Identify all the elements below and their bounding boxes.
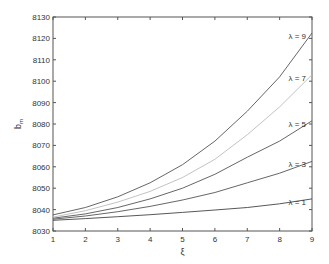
series-label: λ = 9 xyxy=(288,32,306,41)
x-tick-label: 8 xyxy=(277,235,282,244)
x-tick-label: 7 xyxy=(245,235,250,244)
y-axis-label: bm xyxy=(13,119,24,129)
x-tick-label: 1 xyxy=(51,235,56,244)
series-line xyxy=(53,161,312,219)
series-label: λ = 1 xyxy=(288,198,306,207)
y-tick-label: 8050 xyxy=(32,184,50,193)
x-tick-label: 4 xyxy=(148,235,153,244)
x-tick-label: 2 xyxy=(83,235,88,244)
series-label: λ = 3 xyxy=(288,160,306,169)
series-line xyxy=(53,199,312,220)
series-line xyxy=(53,75,312,217)
x-axis-label: ξ xyxy=(180,247,184,257)
x-tick-label: 3 xyxy=(116,235,121,244)
series-label: λ = 5 xyxy=(288,120,306,129)
line-chart: 1234567898030804080508060807080808090810… xyxy=(0,0,329,264)
series-line xyxy=(53,121,312,218)
y-tick-label: 8040 xyxy=(32,206,50,215)
series-line xyxy=(53,33,312,215)
y-tick-label: 8060 xyxy=(32,163,50,172)
y-tick-label: 8110 xyxy=(33,56,51,65)
y-tick-label: 8130 xyxy=(32,13,50,22)
y-tick-label: 8070 xyxy=(32,141,50,150)
series-label: λ = 7 xyxy=(288,74,306,83)
y-tick-label: 8120 xyxy=(32,34,50,43)
y-tick-label: 8080 xyxy=(32,120,50,129)
x-tick-label: 9 xyxy=(310,235,315,244)
x-tick-label: 6 xyxy=(213,235,218,244)
x-tick-label: 5 xyxy=(180,235,185,244)
plot-frame xyxy=(53,17,312,231)
y-tick-label: 8100 xyxy=(32,77,50,86)
y-tick-label: 8030 xyxy=(32,227,50,236)
y-tick-label: 8090 xyxy=(32,99,50,108)
